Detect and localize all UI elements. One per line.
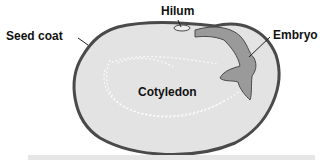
seed-diagram [0, 0, 330, 160]
seed-coat-leader-line [78, 38, 88, 45]
label-cotyledon: Cotyledon [138, 86, 197, 98]
hilum-shape [174, 25, 190, 31]
label-seed-coat: Seed coat [6, 30, 63, 42]
label-embryo: Embryo [273, 29, 318, 41]
label-hilum: Hilum [161, 5, 194, 17]
bottom-bar [28, 155, 315, 160]
